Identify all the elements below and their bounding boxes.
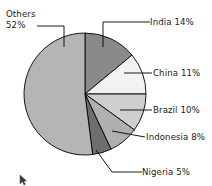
pie-label-others-value: 52% [6,20,35,31]
pie-label-others: Others 52% [6,9,35,30]
pie-slice-others[interactable] [24,33,93,155]
pie-label-others-name: Others [6,9,35,20]
pie-chart-figure: India 14% China 11% Brazil 10% Indonesia… [0,0,212,186]
leader-line-nigeria [96,150,142,172]
pie-label-nigeria: Nigeria 5% [142,167,190,178]
pie-label-china: China 11% [153,68,200,79]
pie-slices [24,33,146,155]
pie-label-india: India 14% [150,17,194,28]
cursor-artifact [20,175,27,185]
pie-label-indonesia: Indonesia 8% [146,132,205,143]
pie-label-brazil: Brazil 10% [153,105,200,116]
